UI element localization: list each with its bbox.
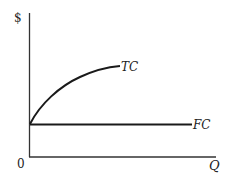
tc-curve [30,66,120,124]
cost-chart: $ 0 Q TC FC [0,0,231,183]
tc-label: TC [121,60,138,74]
x-axis-label: Q [209,158,220,173]
y-axis-label: $ [14,11,22,25]
origin-label: 0 [17,157,25,171]
fc-label: FC [192,118,211,132]
